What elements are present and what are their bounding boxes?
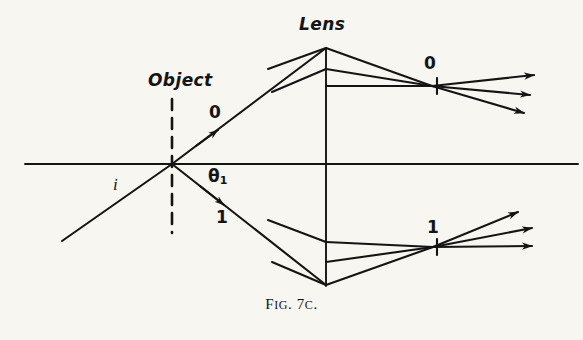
lower-parallel-ray-2 bbox=[272, 262, 326, 285]
object-label: Object bbox=[148, 72, 213, 89]
caption-f: F bbox=[265, 296, 274, 312]
caption-num: . 7 bbox=[288, 296, 305, 312]
lower-output-arrow-3 bbox=[433, 246, 532, 247]
lower-parallel-ray-1 bbox=[268, 220, 326, 242]
theta-glyph: θ bbox=[208, 166, 220, 186]
ray-one-direction-arrow bbox=[200, 186, 224, 205]
incident-ray-label: i bbox=[113, 176, 118, 193]
image-zero-label: 0 bbox=[424, 55, 436, 72]
upper-converging-ray-1 bbox=[326, 48, 432, 86]
figure-caption: FIG. 7C. bbox=[0, 296, 583, 313]
lens-label: Lens bbox=[299, 16, 345, 33]
upper-output-arrow-1 bbox=[432, 75, 534, 86]
angle-theta1-label: θ1 bbox=[208, 168, 227, 186]
upper-parallel-ray-1 bbox=[268, 48, 326, 69]
caption-ig: IG bbox=[274, 298, 288, 312]
figure-container: Object Lens 0 1 0 1 i θ1 FIG. 7C. bbox=[0, 0, 583, 340]
ray-zero-direction-arrow bbox=[196, 130, 218, 146]
lower-converging-ray-3 bbox=[326, 247, 433, 285]
theta-subscript: 1 bbox=[220, 174, 228, 187]
lower-converging-ray-2 bbox=[326, 247, 433, 262]
lower-converging-ray-1 bbox=[326, 242, 433, 247]
upper-converging-ray-2 bbox=[326, 69, 432, 86]
lower-output-arrow-1 bbox=[433, 212, 518, 247]
ray-zero-source-label: 0 bbox=[209, 104, 221, 121]
ray-zero-line bbox=[172, 48, 326, 164]
ray-one-source-label: 1 bbox=[216, 209, 228, 226]
lower-output-arrow-2 bbox=[433, 228, 532, 247]
ray-one-line bbox=[172, 164, 326, 285]
upper-parallel-ray-2 bbox=[272, 69, 326, 92]
ray-diagram-svg bbox=[0, 0, 583, 340]
image-one-label: 1 bbox=[427, 219, 439, 236]
caption-period: . bbox=[313, 296, 317, 312]
